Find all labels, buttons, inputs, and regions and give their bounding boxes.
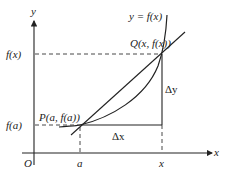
curve-label: y = f(x) [128, 10, 162, 23]
a-tick-label: a [77, 157, 83, 169]
fx-tick-label: f(x) [6, 48, 22, 61]
secant-line-diagram: y x O y = f(x) Q(x, f(x)) P(a, f(a)) f(x… [0, 0, 231, 174]
delta-x-label: Δx [112, 130, 125, 142]
diagram-svg: y x O y = f(x) Q(x, f(x)) P(a, f(a)) f(x… [0, 0, 231, 174]
fa-tick-label: f(a) [6, 119, 22, 132]
point-p-label: P(a, f(a)) [38, 111, 80, 124]
y-axis-label: y [30, 5, 36, 17]
origin-label: O [24, 157, 32, 169]
point-q-label: Q(x, f(x)) [130, 37, 171, 50]
x-tick-label: x [158, 157, 164, 169]
x-axis-label: x [213, 146, 219, 158]
delta-y-label: Δy [165, 83, 178, 95]
